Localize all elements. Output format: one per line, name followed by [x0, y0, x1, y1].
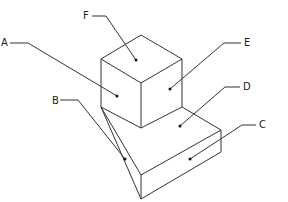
label-c: C [259, 120, 266, 130]
cube-top-face [101, 35, 182, 83]
label-a: A [1, 38, 8, 48]
label-d: D [243, 82, 251, 92]
leader-E [170, 43, 241, 89]
leader-F [92, 16, 136, 60]
diagram-drawing [0, 0, 288, 202]
label-f: F [83, 11, 89, 21]
leader-D [180, 87, 240, 126]
leader-B [60, 100, 125, 159]
label-e: E [244, 38, 250, 48]
label-b: B [52, 96, 59, 106]
isometric-diagram: A B C D E F [0, 0, 288, 202]
